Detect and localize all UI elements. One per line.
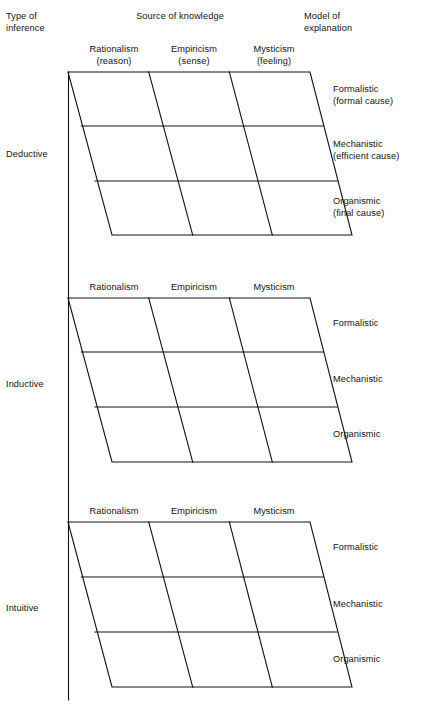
- block-deductive-column-empiricism: Empiricism (sense): [152, 43, 236, 68]
- block-intuitive-model-formalistic: Formalistic: [333, 541, 428, 553]
- header-source-of-knowledge: Source of knowledge: [110, 10, 250, 22]
- block-inductive-column-mysticism: Mysticism: [232, 281, 316, 293]
- block-inductive-model-organismic: Organismic: [333, 428, 428, 440]
- block-deductive-model-formalistic: Formalistic (formal cause): [333, 83, 428, 108]
- diagram-root: Type of inference Source of knowledge Mo…: [0, 0, 428, 706]
- block-deductive-grid: [68, 72, 352, 235]
- block-intuitive-column-rationalism: Rationalism: [72, 505, 156, 517]
- block-inductive-grid: [68, 298, 352, 462]
- block-intuitive-model-mechanistic: Mechanistic: [333, 598, 428, 610]
- block-deductive-column-rationalism: Rationalism (reason): [72, 43, 156, 68]
- block-inductive-model-mechanistic: Mechanistic: [333, 373, 428, 385]
- header-model-of-explanation: Model of explanation: [304, 10, 394, 35]
- block-inductive-model-formalistic: Formalistic: [333, 317, 428, 329]
- block-inductive-column-empiricism: Empiricism: [152, 281, 236, 293]
- block-deductive-model-mechanistic: Mechanistic (efficient cause): [333, 138, 428, 163]
- block-intuitive-column-empiricism: Empiricism: [152, 505, 236, 517]
- row-label-deductive: Deductive: [6, 148, 66, 160]
- row-label-inductive: Inductive: [6, 378, 66, 390]
- header-type-of-inference: Type of inference: [6, 10, 66, 35]
- block-deductive-model-organismic: Organismic (final cause): [333, 195, 428, 220]
- row-label-intuitive: Intuitive: [6, 602, 66, 614]
- block-intuitive-column-mysticism: Mysticism: [232, 505, 316, 517]
- block-inductive-column-rationalism: Rationalism: [72, 281, 156, 293]
- block-intuitive-grid: [68, 522, 352, 687]
- block-intuitive-model-organismic: Organismic: [333, 653, 428, 665]
- block-deductive-column-mysticism: Mysticism (feeling): [232, 43, 316, 68]
